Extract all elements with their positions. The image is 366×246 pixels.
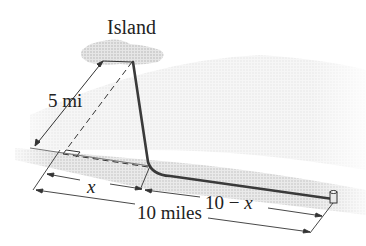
ten-minus-x-number: 10 − — [205, 192, 244, 213]
island-label: Island — [107, 17, 156, 37]
offshore-distance-label: 5 mi — [48, 91, 82, 110]
cable-diagram: Island 5 mi x 10 − x 10 miles — [0, 0, 366, 246]
power-station-icon — [330, 191, 337, 204]
ten-minus-x-label: 10 − x — [205, 193, 253, 212]
total-distance-label: 10 miles — [137, 203, 202, 222]
x-label: x — [87, 177, 95, 196]
ten-minus-x-variable: x — [244, 192, 252, 213]
